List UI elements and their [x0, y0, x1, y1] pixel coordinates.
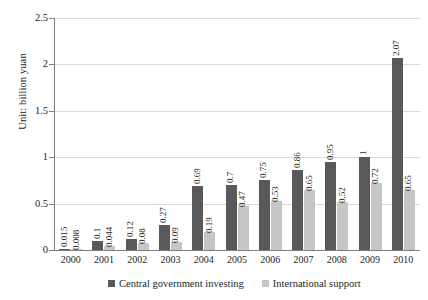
bar-2005-central: [226, 185, 237, 250]
x-tick-label-2006: 2006: [253, 254, 287, 265]
bar-value-label: 0.27: [159, 207, 168, 223]
bar-2007-international: [304, 190, 315, 250]
x-tick-label-2010: 2010: [386, 254, 420, 265]
bar-value-label: 0.69: [193, 168, 202, 184]
x-tick-label-2004: 2004: [187, 254, 221, 265]
bar-value-label: 0.12: [126, 221, 135, 237]
bar-value-label: 1: [359, 151, 368, 156]
bar-2008-central: [325, 162, 336, 250]
x-tick-label-2008: 2008: [320, 254, 354, 265]
bar-value-label: 0.65: [404, 175, 413, 191]
legend-label: Central government investing: [119, 278, 244, 289]
legend-swatch-icon-dark: [108, 280, 115, 287]
legend-swatch-icon-light: [262, 280, 269, 287]
bar-value-label: 0.19: [205, 218, 214, 234]
bar-value-label: 0.09: [171, 227, 180, 243]
bar-value-label: 0.53: [271, 186, 280, 202]
x-tick-label-2003: 2003: [153, 254, 187, 265]
bar-value-label: 0.015: [60, 226, 69, 246]
x-tick-label-2002: 2002: [120, 254, 154, 265]
bar-2000-central: [59, 249, 70, 250]
bar-2002-central: [126, 239, 137, 250]
y-axis-title: Unit: billion yuan: [17, 32, 28, 152]
bar-value-label: 0.08: [138, 228, 147, 244]
bar-2010-international: [404, 190, 415, 250]
bar-value-label: 0.86: [293, 152, 302, 168]
bar-2005-international: [238, 206, 249, 250]
bar-2006-central: [259, 180, 270, 250]
bar-value-label: 0.044: [105, 227, 114, 247]
plot-area: 0.0150.0080.10.0440.120.080.270.090.690.…: [54, 18, 420, 250]
x-tick-label-2007: 2007: [287, 254, 321, 265]
bar-value-label: 2.07: [392, 40, 401, 56]
bar-2004-international: [204, 232, 215, 250]
bar-value-label: 0.008: [72, 230, 81, 250]
bar-value-label: 0.65: [305, 175, 314, 191]
bar-2001-central: [92, 241, 103, 250]
bar-2008-international: [337, 202, 348, 250]
bar-value-label: 0.7: [226, 172, 235, 183]
bar-value-label: 0.1: [93, 227, 102, 238]
bar-2006-international: [271, 201, 282, 250]
legend-item-central-government-investing[interactable]: Central government investing: [108, 278, 244, 289]
bar-chart: Unit: billion yuan 00.511.522.5 0.0150.0…: [0, 0, 428, 300]
bar-value-label: 0.47: [238, 192, 247, 208]
legend-item-international-support[interactable]: International support: [262, 278, 361, 289]
legend-label: International support: [273, 278, 361, 289]
bar-value-label: 0.75: [259, 163, 268, 179]
bar-2009-central: [359, 157, 370, 250]
bar-2003-central: [159, 225, 170, 250]
legend: Central government investing Internation…: [108, 278, 373, 289]
x-tick-label-2005: 2005: [220, 254, 254, 265]
x-tick-label-2000: 2000: [54, 254, 88, 265]
bar-2009-international: [371, 183, 382, 250]
bar-2007-central: [292, 170, 303, 250]
x-axis-line: [54, 250, 420, 251]
bar-2010-central: [392, 58, 403, 250]
bar-value-label: 0.52: [338, 187, 347, 203]
bar-2004-central: [192, 186, 203, 250]
x-tick-label-2009: 2009: [353, 254, 387, 265]
x-tick-label-2001: 2001: [87, 254, 121, 265]
bar-value-label: 0.95: [326, 144, 335, 160]
bar-value-label: 0.72: [371, 168, 380, 184]
